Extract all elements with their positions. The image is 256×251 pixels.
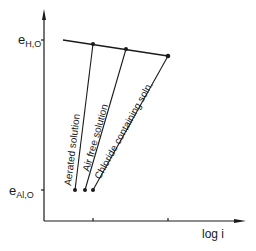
label-e-h2o: eH,O xyxy=(18,32,41,49)
label-log-i: log i xyxy=(202,227,224,241)
cathodic-line xyxy=(63,40,168,56)
label-aerated: Aerated solution xyxy=(62,113,82,186)
diagram-canvas: eH,O eAl,O log i Aerated solution Air fr… xyxy=(0,0,256,251)
label-e-al: eAl,O xyxy=(9,183,34,200)
y-axis-arrow-icon xyxy=(42,9,46,20)
evans-diagram: eH,O eAl,O log i Aerated solution Air fr… xyxy=(0,0,256,251)
x-axis-arrow-icon xyxy=(234,219,246,223)
y-axis xyxy=(41,14,44,221)
x-axis xyxy=(44,218,240,221)
